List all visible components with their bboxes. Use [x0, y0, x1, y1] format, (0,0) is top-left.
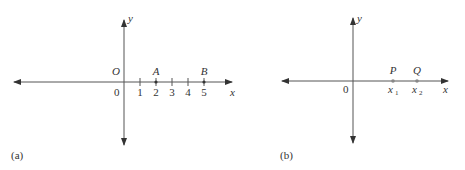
- panel-caption: (b): [280, 149, 293, 162]
- point-a-marker: [154, 80, 157, 83]
- svg-text:2: 2: [419, 89, 423, 97]
- point-p-label: P: [389, 64, 397, 76]
- point-q-label: Q: [413, 64, 421, 76]
- number-line-figure: y x O 0 1 2 3 4 5 A B (a) y x 0 P Q x 1 …: [0, 0, 465, 170]
- panel-caption: (a): [11, 149, 24, 162]
- tick-label: 2: [153, 86, 159, 98]
- panel-a: y x O 0 1 2 3 4 5 A B (a): [11, 12, 235, 162]
- point-b-label: B: [201, 65, 208, 77]
- origin-label: O: [112, 65, 120, 77]
- tick-label: 5: [201, 86, 207, 98]
- tick-label: 1: [137, 86, 143, 98]
- point-q-coord: x 2: [411, 83, 423, 97]
- zero-label: 0: [114, 86, 120, 98]
- point-p-coord: x 1: [387, 83, 399, 97]
- y-axis-label: y: [356, 12, 362, 24]
- tick-label: 4: [185, 86, 191, 98]
- svg-text:x: x: [387, 83, 393, 95]
- zero-label: 0: [343, 83, 349, 95]
- tick-label: 3: [169, 86, 175, 98]
- x-axis-label: x: [229, 86, 235, 98]
- panel-b: y x 0 P Q x 1 x 2 (b): [280, 12, 448, 162]
- svg-text:1: 1: [395, 89, 399, 97]
- point-b-marker: [202, 80, 205, 83]
- y-axis-label: y: [127, 12, 133, 24]
- svg-text:x: x: [411, 83, 417, 95]
- point-a-label: A: [152, 65, 160, 77]
- x-axis-label: x: [442, 83, 448, 95]
